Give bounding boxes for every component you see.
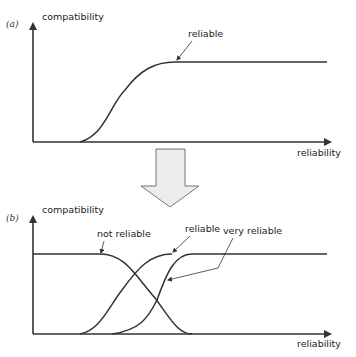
panel-b: (b) compatibility reliability not reliab… — [6, 204, 341, 349]
panel-b-very-reliable-curve — [112, 254, 327, 334]
fuzzy-reliability-diagram: (a) compatibility reliability reliable (… — [0, 0, 356, 357]
down-arrow-icon — [141, 149, 199, 207]
panel-b-not-reliable-label: not reliable — [97, 228, 151, 239]
panel-b-not-reliable-leader — [101, 241, 104, 253]
panel-b-x-axis-label: reliability — [297, 338, 341, 349]
panel-b-reliable-label: reliable — [185, 223, 220, 234]
panel-a-reliable-label: reliable — [188, 28, 223, 39]
panel-b-tag: (b) — [6, 213, 19, 223]
panel-a-tag: (a) — [6, 19, 19, 29]
panel-a-reliable-curve — [80, 62, 327, 142]
panel-a-x-axis-label: reliability — [297, 147, 341, 158]
panel-b-not-reliable-curve — [33, 254, 192, 334]
panel-b-reliable-leader — [173, 236, 190, 252]
panel-b-y-axis-label: compatibility — [42, 204, 104, 215]
panel-a: (a) compatibility reliability reliable — [6, 11, 341, 158]
panel-b-reliable-curve — [80, 254, 172, 334]
panel-a-reliable-leader — [177, 41, 192, 60]
panel-a-y-axis-label: compatibility — [42, 11, 104, 22]
panel-b-very-reliable-label: very reliable — [223, 225, 282, 236]
transition-arrow — [141, 149, 199, 207]
